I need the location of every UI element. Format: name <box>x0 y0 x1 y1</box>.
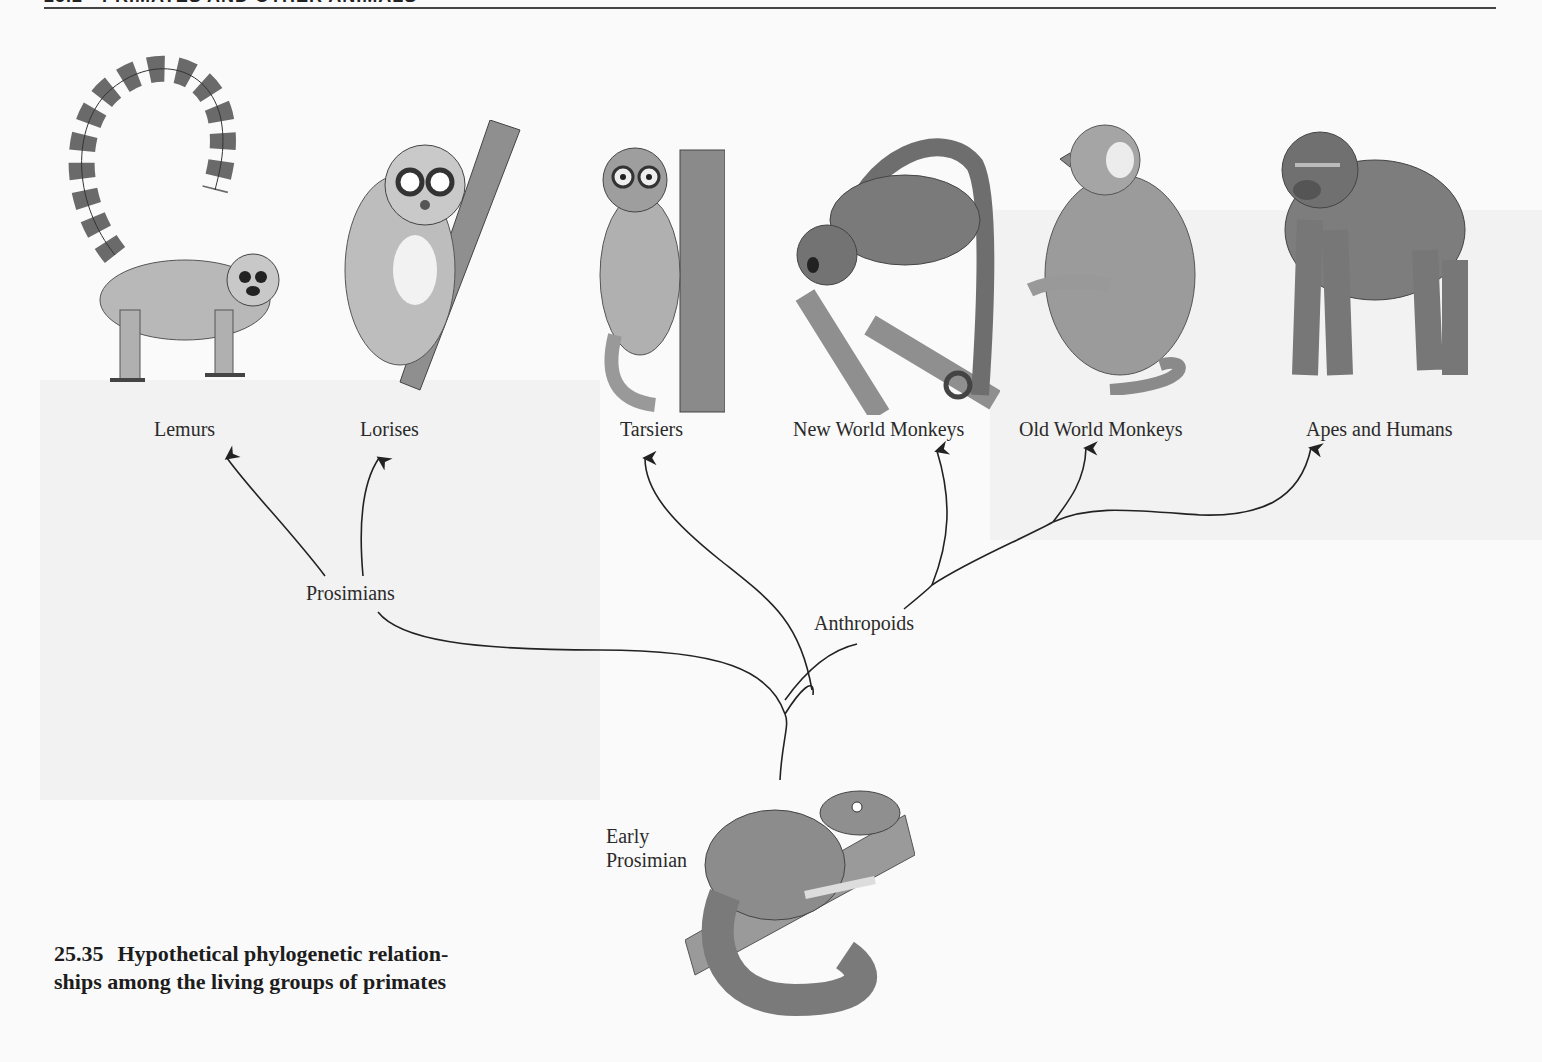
branch-apes <box>1053 448 1311 522</box>
branch-anthropoids <box>904 522 1053 609</box>
root-label-line1: Early <box>606 824 687 848</box>
taxon-label-apes-and-humans: Apes and Humans <box>1306 418 1453 441</box>
branch-lorises <box>361 458 379 576</box>
figure-caption: 25.35Hypothetical phylogenetic relation-… <box>54 940 448 996</box>
clade-label-prosimians: Prosimians <box>306 582 395 605</box>
branch-nwm <box>932 451 947 585</box>
taxon-label-tarsiers: Tarsiers <box>620 418 683 441</box>
branch-prosimians <box>378 612 785 714</box>
root-label-line2: Prosimian <box>606 848 687 872</box>
root-trunk <box>780 714 787 780</box>
branch-lemurs <box>227 458 325 576</box>
new-world-monkey-illustration <box>785 125 1000 415</box>
old-world-monkey-illustration <box>1010 115 1210 395</box>
branch-anthropoid-stem <box>785 644 857 714</box>
clade-label-anthropoids: Anthropoids <box>814 612 914 635</box>
gorilla-illustration <box>1265 110 1475 390</box>
figure-number: 25.35 <box>54 941 104 966</box>
branch-owm <box>1053 448 1086 522</box>
loris-illustration <box>330 120 530 395</box>
taxon-label-new-world-monkeys: New World Monkeys <box>793 418 964 441</box>
taxon-label-lemurs: Lemurs <box>154 418 215 441</box>
branch-tarsiers <box>645 458 812 690</box>
taxon-label-old-world-monkeys: Old World Monkeys <box>1019 418 1183 441</box>
taxon-label-lorises: Lorises <box>360 418 419 441</box>
root-label: Early Prosimian <box>606 824 687 872</box>
tarsier-illustration <box>585 135 725 415</box>
early-prosimian-illustration <box>685 775 915 1020</box>
caption-text-1: Hypothetical phylogenetic relation- <box>118 941 449 966</box>
lemur-illustration <box>55 55 295 400</box>
caption-line2: ships among the living groups of primate… <box>54 968 448 996</box>
caption-line1: 25.35Hypothetical phylogenetic relation- <box>54 940 448 968</box>
